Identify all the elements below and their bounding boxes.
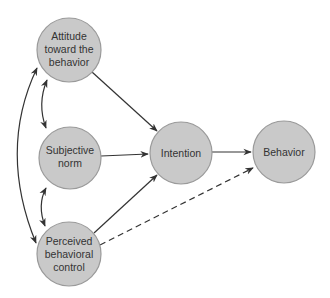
- node-intention: Intention: [150, 122, 212, 184]
- node-label-line: norm: [58, 157, 82, 169]
- node-label-line: behavior: [49, 56, 90, 68]
- edge-attitude-subjective-norm: [42, 80, 47, 128]
- edge-subjective-norm-to-intention: [101, 154, 148, 156]
- node-label-line: Perceived: [46, 235, 93, 247]
- node-label-line: toward the: [44, 43, 93, 55]
- node-label-line: Behavior: [263, 146, 305, 158]
- edge-attitude-to-intention: [92, 72, 157, 131]
- node-behavior: Behavior: [253, 121, 315, 183]
- node-perceived-behavioral-control: Perceived behavioral control: [37, 222, 101, 286]
- edge-attitude-perceived-control: [17, 68, 37, 243]
- node-label-line: Attitude: [51, 30, 87, 42]
- node-attitude: Attitude toward the behavior: [37, 18, 101, 82]
- edge-subjective-norm-perceived-control: [41, 188, 46, 226]
- node-label-line: Subjective: [46, 144, 95, 156]
- node-label-line: Intention: [161, 147, 201, 159]
- node-label-line: control: [53, 261, 85, 273]
- node-label-line: behavioral: [45, 248, 93, 260]
- tpb-diagram: Attitude toward the behavior Subjective …: [0, 0, 330, 298]
- node-subjective-norm: Subjective norm: [39, 127, 101, 189]
- edge-perceived-control-to-intention: [94, 175, 157, 233]
